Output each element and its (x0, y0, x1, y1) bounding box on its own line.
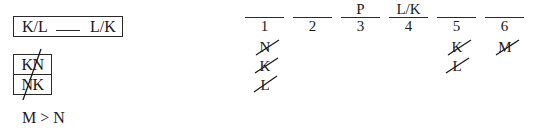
rule-blank (56, 17, 80, 31)
block-rule-stack: KN NK (13, 54, 52, 95)
eliminated-letter: K (255, 57, 275, 75)
slot-value: L/K (389, 1, 428, 17)
eliminated-letter: N (255, 38, 275, 56)
slot-value (485, 1, 524, 17)
slot-1: 1 (245, 1, 284, 35)
eliminated-letter: L (447, 57, 467, 75)
slot-2: 2 (293, 1, 332, 35)
inequality-rule: M > N (22, 109, 65, 127)
block-row-nk: NK (14, 74, 51, 94)
slot-3: P 3 (341, 1, 380, 35)
rule-left-text: K/L (22, 17, 48, 36)
slot-5: 5 (437, 1, 476, 35)
eliminated-letter: L (255, 76, 275, 94)
slot-number: 1 (245, 18, 284, 35)
adjacency-rule-box: K/L L/K (13, 16, 123, 37)
rule-right-text: L/K (90, 17, 116, 36)
slot-number: 6 (485, 18, 524, 35)
slot-number: 5 (437, 18, 476, 35)
slot-value (437, 1, 476, 17)
slot-number: 4 (389, 18, 428, 35)
block-row-kn: KN (14, 55, 51, 74)
slot-number: 2 (293, 18, 332, 35)
eliminated-letter: K (447, 38, 467, 56)
slot-number: 3 (341, 18, 380, 35)
slot-value (245, 1, 284, 17)
slot-value: P (341, 1, 380, 17)
slot-value (293, 1, 332, 17)
eliminated-letter: M (495, 38, 515, 56)
slot-6: 6 (485, 1, 524, 35)
slot-4: L/K 4 (389, 1, 428, 35)
